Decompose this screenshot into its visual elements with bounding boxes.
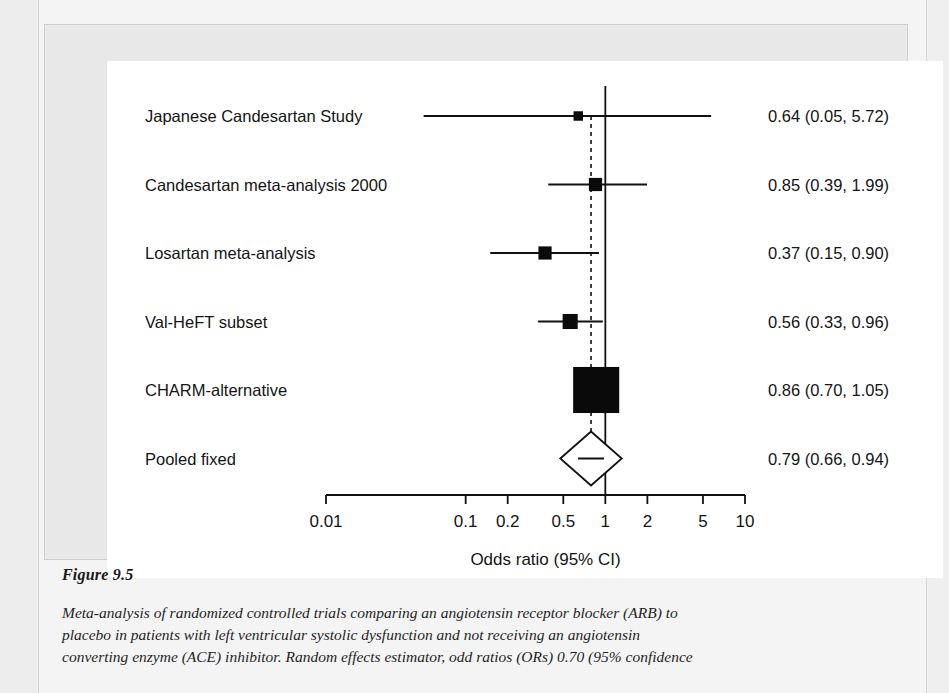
study-label: Losartan meta-analysis <box>145 244 316 262</box>
study-label: Japanese Candesartan Study <box>145 107 363 125</box>
x-axis-tick-label: 0.01 <box>309 512 342 531</box>
x-axis-tick-label: 0.1 <box>454 512 478 531</box>
effect-marker-square <box>538 246 551 259</box>
x-axis-tick-label: 5 <box>698 512 707 531</box>
page-gutter-left <box>0 0 39 693</box>
study-label: Val-HeFT subset <box>145 313 268 331</box>
result-value: 0.37 (0.15, 0.90) <box>768 244 889 262</box>
result-value: 0.85 (0.39, 1.99) <box>768 176 889 194</box>
figure-frame: Japanese Candesartan Study0.64 (0.05, 5.… <box>44 24 908 560</box>
study-label: Pooled fixed <box>145 450 236 468</box>
figure-caption-block: Figure 9.5 Meta-analysis of randomized c… <box>62 566 910 668</box>
result-value: 0.86 (0.70, 1.05) <box>768 381 889 399</box>
forest-plot-panel: Japanese Candesartan Study0.64 (0.05, 5.… <box>107 61 943 578</box>
figure-number-label: Figure 9.5 <box>62 566 910 584</box>
result-value: 0.56 (0.33, 0.96) <box>768 313 889 331</box>
study-label: CHARM-alternative <box>145 381 287 399</box>
effect-marker-square <box>574 111 583 120</box>
caption-line: Meta-analysis of randomized controlled t… <box>62 602 902 624</box>
caption-line: placebo in patients with left ventricula… <box>62 624 902 646</box>
result-value: 0.64 (0.05, 5.72) <box>768 107 889 125</box>
x-axis-tick-label: 2 <box>643 512 652 531</box>
x-axis-tick-label: 10 <box>736 512 755 531</box>
effect-marker-square <box>573 367 619 413</box>
forest-plot-svg: Japanese Candesartan Study0.64 (0.05, 5.… <box>107 61 943 578</box>
figure-page: Japanese Candesartan Study0.64 (0.05, 5.… <box>0 0 949 693</box>
x-axis-tick-label: 0.2 <box>496 512 520 531</box>
effect-marker-square <box>563 314 578 329</box>
x-axis-tick-label: 1 <box>601 512 610 531</box>
caption-line: converting enzyme (ACE) inhibitor. Rando… <box>62 646 902 668</box>
study-label: Candesartan meta-analysis 2000 <box>145 176 387 194</box>
x-axis-tick-label: 0.5 <box>551 512 575 531</box>
figure-caption-text: Meta-analysis of randomized controlled t… <box>62 602 902 668</box>
result-value: 0.79 (0.66, 0.94) <box>768 450 889 468</box>
effect-marker-square <box>589 178 602 191</box>
